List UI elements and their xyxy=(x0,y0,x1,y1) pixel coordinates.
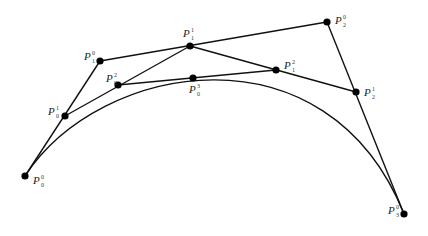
label-sup-P10: 0 xyxy=(92,50,95,56)
bezier-curve-path xyxy=(25,80,404,214)
bezier-diagram: P00P01P02P03P10P11P12P20P21P30 xyxy=(0,0,428,236)
label-P02: P xyxy=(105,72,113,84)
point-P12 xyxy=(272,66,279,73)
label-P12: P xyxy=(283,59,291,71)
label-P21: P xyxy=(363,86,371,98)
label-sub-P20: 2 xyxy=(343,22,346,28)
label-sub-P11: 1 xyxy=(191,35,194,41)
label-sup-P11: 1 xyxy=(191,27,194,33)
segment-P10-P20 xyxy=(100,22,327,61)
point-P00 xyxy=(21,172,28,179)
label-sub-P30: 3 xyxy=(396,212,399,218)
label-sub-P02: 0 xyxy=(114,80,117,86)
segment-P20-P30 xyxy=(327,22,404,214)
point-P10 xyxy=(96,57,103,64)
point-P21 xyxy=(352,88,359,95)
label-sub-P01: 0 xyxy=(56,113,59,119)
label-sup-P02: 2 xyxy=(114,72,117,78)
label-P10: P xyxy=(83,50,91,62)
control-polygon xyxy=(25,22,404,214)
label-P30: P xyxy=(387,204,395,216)
control-points xyxy=(21,18,407,217)
label-sup-P12: 2 xyxy=(292,59,295,65)
bezier-curve xyxy=(25,80,404,214)
label-sup-P30: 0 xyxy=(396,204,399,210)
label-sub-P12: 1 xyxy=(292,67,295,73)
point-P30 xyxy=(400,210,407,217)
label-sub-P00: 0 xyxy=(41,182,44,188)
label-sub-P21: 2 xyxy=(372,94,375,100)
label-sub-P03: 0 xyxy=(197,91,200,97)
label-P00: P xyxy=(32,174,40,186)
label-sup-P20: 0 xyxy=(343,14,346,20)
label-sub-P10: 1 xyxy=(92,58,95,64)
point-P01 xyxy=(61,112,68,119)
label-P01: P xyxy=(47,105,55,117)
label-sup-P03: 3 xyxy=(197,83,200,89)
label-P20: P xyxy=(334,14,342,26)
point-P11 xyxy=(186,42,193,49)
label-P03: P xyxy=(188,83,196,95)
label-sup-P00: 0 xyxy=(41,174,44,180)
point-P20 xyxy=(323,18,330,25)
label-P11: P xyxy=(182,27,190,39)
label-sup-P01: 1 xyxy=(56,105,59,111)
point-P03 xyxy=(189,74,196,81)
label-sup-P21: 1 xyxy=(372,86,375,92)
